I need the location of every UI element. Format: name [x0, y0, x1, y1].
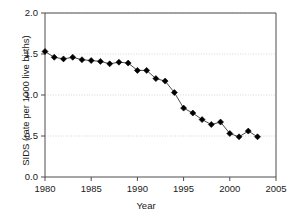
x-axis-ticks: 198019851990199520002005: [34, 177, 286, 194]
sids-rate-line-chart: 0.00.51.01.52.0 198019851990199520002005…: [0, 0, 292, 220]
data-point-marker: [181, 105, 187, 111]
data-point-marker: [116, 59, 122, 65]
x-tick-label: 1995: [173, 183, 194, 194]
data-point-marker: [255, 134, 261, 140]
data-point-marker: [245, 128, 251, 134]
data-point-markers: [42, 49, 261, 140]
x-tick-label: 1990: [127, 183, 148, 194]
data-point-marker: [51, 54, 57, 60]
data-line: [45, 52, 258, 137]
data-point-marker: [97, 58, 103, 64]
x-tick-label: 1980: [34, 183, 55, 194]
series-line-sids-rate: [45, 52, 258, 137]
x-axis-label: Year: [0, 200, 292, 211]
data-point-marker: [208, 122, 214, 128]
x-tick-label: 2005: [265, 183, 286, 194]
data-point-marker: [88, 58, 94, 64]
gridlines: [45, 13, 276, 136]
data-point-marker: [107, 61, 113, 67]
data-point-marker: [70, 54, 76, 60]
x-tick-label: 1985: [81, 183, 102, 194]
x-tick-label: 2000: [219, 183, 240, 194]
data-point-marker: [79, 57, 85, 63]
y-axis-label: SIDS (rate per 1000 live births): [20, 16, 31, 186]
data-point-marker: [236, 134, 242, 140]
chart-plot-area: 0.00.51.01.52.0 198019851990199520002005: [0, 0, 292, 220]
data-point-marker: [60, 56, 66, 62]
